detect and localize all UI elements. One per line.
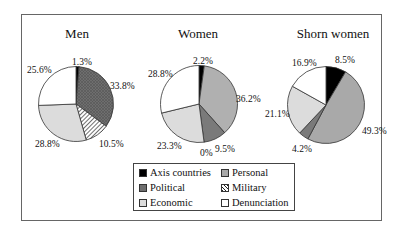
women-label-personal: 36.2%	[236, 94, 261, 104]
legend-label-political: Political	[150, 182, 185, 193]
shorn-label-axis: 8.5%	[335, 55, 355, 65]
women-label-political: 9.5%	[215, 144, 235, 154]
women-label-denunciation: 28.8%	[148, 69, 173, 79]
men-pie-title: Men	[17, 26, 137, 42]
legend-swatch-military	[221, 184, 229, 192]
men-label-political: 33.8%	[110, 81, 135, 91]
shorn-women-pie-chart	[286, 64, 366, 146]
legend-label-economic: Economic	[150, 197, 193, 208]
legend-item-political: Political	[139, 182, 185, 193]
legend-label-military: Military	[232, 182, 266, 193]
shorn-label-political: 4.2%	[292, 144, 312, 154]
shorn-women-pie-title: Shorn women	[273, 26, 393, 42]
men-label-economic: 28.8%	[35, 139, 60, 149]
legend-swatch-axis-countries	[139, 169, 147, 177]
women-label-military: 0%	[200, 148, 213, 158]
legend-item-denunciation: Denunciation	[221, 197, 289, 208]
women-label-axis: 2.2%	[193, 56, 213, 66]
women-pie-title: Women	[138, 26, 258, 42]
legend-swatch-denunciation	[221, 199, 229, 207]
legend-swatch-economic	[139, 199, 147, 207]
legend-swatch-personal	[221, 169, 229, 177]
legend-item-axis-countries: Axis countries	[139, 167, 211, 178]
legend-label-denunciation: Denunciation	[232, 197, 289, 208]
chart-legend: Axis countries Personal Political Milita…	[133, 163, 295, 211]
men-label-military: 10.5%	[99, 139, 124, 149]
shorn-label-economic: 21.1%	[265, 109, 290, 119]
shorn-label-personal: 49.3%	[362, 126, 387, 136]
men-label-axis: 1.3%	[72, 57, 92, 67]
legend-label-axis-countries: Axis countries	[150, 167, 211, 178]
legend-item-economic: Economic	[139, 197, 193, 208]
women-label-economic: 23.3%	[157, 141, 182, 151]
men-pie-chart	[37, 64, 115, 144]
legend-item-military: Military	[221, 182, 266, 193]
legend-swatch-political	[139, 184, 147, 192]
legend-label-personal: Personal	[232, 167, 268, 178]
legend-item-personal: Personal	[221, 167, 268, 178]
shorn-label-denunciation: 16.9%	[292, 58, 317, 68]
men-label-denunciation: 25.6%	[27, 65, 52, 75]
